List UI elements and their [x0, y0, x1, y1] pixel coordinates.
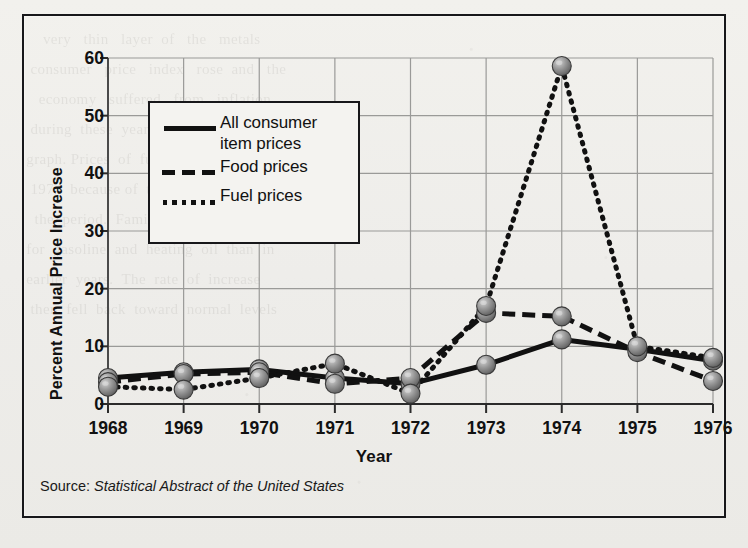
legend-label-all-consumer: All consumer item prices [220, 112, 317, 154]
legend-key-solid-icon [160, 117, 220, 139]
x-tick-1975: 1975 [597, 418, 677, 439]
x-tick-1976: 1976 [673, 418, 748, 439]
legend-label-line1: All consumer [220, 112, 317, 133]
y-axis-title: Percent Annual Price Increase [48, 167, 66, 400]
y-tick-40: 40 [60, 163, 104, 184]
source-title: Statistical Abstract of the United State… [94, 478, 344, 494]
x-tick-1973: 1973 [446, 418, 526, 439]
source-caption: Source: Statistical Abstract of the Unit… [40, 478, 344, 494]
y-tick-30: 30 [60, 221, 104, 242]
legend-key-dotted-icon [160, 190, 220, 212]
y-tick-0: 0 [60, 394, 104, 415]
chart-legend: All consumer item prices Food prices Fue… [148, 101, 360, 244]
y-tick-10: 10 [60, 336, 104, 357]
legend-label-fuel: Fuel prices [220, 185, 302, 206]
legend-item-food: Food prices [150, 156, 358, 183]
legend-label-food: Food prices [220, 156, 308, 177]
x-tick-1974: 1974 [522, 418, 602, 439]
y-tick-60: 60 [60, 48, 104, 69]
x-tick-1968: 1968 [68, 418, 148, 439]
legend-key-dashed-icon [160, 161, 220, 183]
x-tick-1969: 1969 [144, 418, 224, 439]
y-tick-50: 50 [60, 105, 104, 126]
legend-label-line2: item prices [220, 133, 317, 154]
x-axis-title: Year [0, 447, 748, 467]
x-tick-1970: 1970 [219, 418, 299, 439]
y-tick-20: 20 [60, 278, 104, 299]
source-prefix: Source: [40, 478, 94, 494]
legend-item-fuel: Fuel prices [150, 185, 358, 212]
legend-item-all-consumer: All consumer item prices [150, 112, 358, 154]
x-tick-1972: 1972 [371, 418, 451, 439]
x-tick-1971: 1971 [295, 418, 375, 439]
